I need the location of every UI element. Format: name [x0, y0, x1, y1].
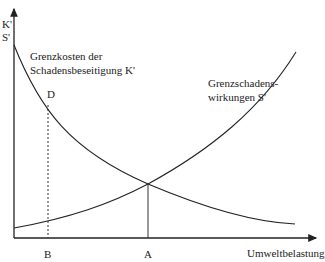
x-tick-b: B	[44, 248, 51, 261]
y-axis-label-k: K'	[2, 18, 12, 31]
damage-curve-label-1: Grenzschadens-	[208, 77, 278, 90]
cost-curve-label-1: Grenzkosten der	[30, 50, 102, 63]
x-tick-a: A	[144, 248, 152, 261]
x-axis-label: Umweltbelastung	[247, 247, 325, 260]
point-d-label: D	[47, 88, 55, 101]
damage-curve-label-2: wirkungen S'	[208, 91, 266, 104]
y-axis-label-s: S'	[2, 31, 10, 44]
cost-curve-label-2: Schadensbeseitigung K'	[30, 64, 135, 77]
